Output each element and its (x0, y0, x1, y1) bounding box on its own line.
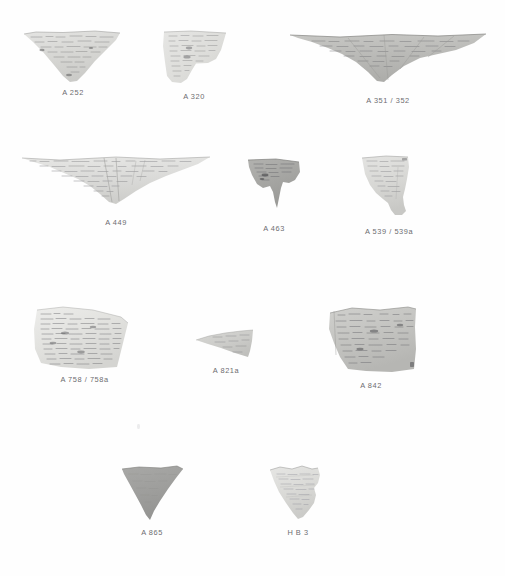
fragment-a-351-352-image (288, 33, 488, 89)
fragment-a-252: A 252 (23, 30, 123, 102)
fragment-a-865-image (119, 465, 185, 525)
fragment-a-842-image (322, 305, 420, 381)
fragment-a-463-label: A 463 (243, 224, 305, 233)
fragment-a-320-label: A 320 (160, 92, 228, 101)
fragment-a-320-image (160, 30, 228, 86)
fragment-a-821a: A 821a (195, 329, 257, 379)
fragment-a-449-label: A 449 (20, 218, 212, 227)
fragments-plate: A 252 (0, 0, 505, 576)
fragment-a-758-758a-image (33, 305, 136, 375)
fragment-a-351-352-label: A 351 / 352 (288, 96, 488, 105)
dust-speck (137, 424, 140, 429)
fragment-a-539-539a: A 539 / 539a (358, 155, 420, 243)
fragment-a-821a-image (195, 329, 257, 363)
fragment-h-b-3-label: H B 3 (268, 528, 328, 537)
fragment-a-351-352: A 351 / 352 (288, 33, 488, 111)
fragment-a-758-758a: A 758 / 758a (33, 305, 136, 391)
fragment-a-463-image (243, 158, 305, 224)
fragment-a-758-758a-label: A 758 / 758a (33, 375, 136, 384)
fragment-a-252-image (23, 30, 123, 86)
fragment-a-252-label: A 252 (23, 88, 123, 97)
fragment-a-842-label: A 842 (322, 381, 420, 390)
fragment-a-539-539a-label: A 539 / 539a (358, 227, 420, 236)
fragment-a-320: A 320 (160, 30, 228, 106)
fragment-a-539-539a-image (358, 155, 420, 225)
fragment-a-865-label: A 865 (119, 528, 185, 537)
fragment-h-b-3: H B 3 (268, 465, 328, 543)
fragment-h-b-3-image (268, 465, 328, 525)
fragment-a-449-image (20, 155, 212, 211)
fragment-a-463: A 463 (243, 158, 305, 240)
fragment-a-842: A 842 (322, 305, 420, 397)
fragment-a-821a-label: A 821a (195, 366, 257, 375)
fragment-a-449: A 449 (20, 155, 212, 233)
fragment-a-865: A 865 (119, 465, 185, 543)
